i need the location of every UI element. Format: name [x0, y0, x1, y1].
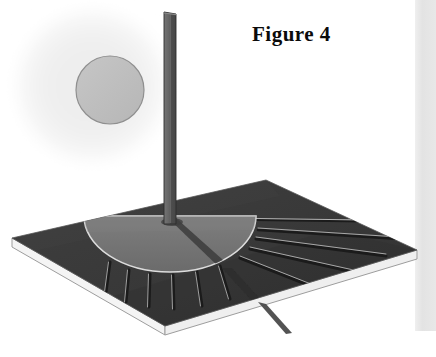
gnomon-rod [164, 12, 176, 224]
page-edge-strip [415, 0, 436, 331]
figure-container: Figure 4 [0, 0, 436, 357]
figure-caption: Figure 4 [252, 22, 331, 47]
sundial-illustration [0, 0, 436, 357]
sun-disc [76, 56, 144, 124]
